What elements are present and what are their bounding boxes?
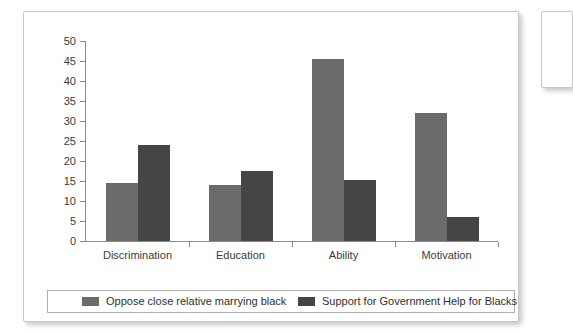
chart-figure: 05101520253035404550 DiscriminationEduca… [34, 21, 506, 266]
y-axis-tick [80, 81, 85, 82]
y-axis-tick-label: 0 [34, 236, 76, 247]
y-axis-tick-label: 15 [34, 176, 76, 187]
legend-swatch [298, 297, 315, 306]
y-axis-tick-label: 25 [34, 136, 76, 147]
legend-entry: Support for Government Help for Blacks [298, 291, 517, 312]
bar [241, 171, 273, 241]
y-axis-tick-label: 35 [34, 96, 76, 107]
legend-label: Support for Government Help for Blacks [322, 296, 517, 307]
y-axis-tick [80, 221, 85, 222]
bar [138, 145, 170, 241]
y-axis-tick [80, 101, 85, 102]
side-panel [541, 11, 573, 88]
y-axis-tick [80, 161, 85, 162]
x-axis-category-label: Education [189, 250, 292, 261]
y-axis-tick [80, 41, 85, 42]
bar [447, 217, 479, 241]
x-axis-category-label: Ability [292, 250, 395, 261]
chart-panel: 05101520253035404550 DiscriminationEduca… [23, 11, 519, 322]
y-axis-tick [80, 121, 85, 122]
x-axis-tick [189, 242, 190, 247]
legend-entry: Oppose close relative marrying black [82, 291, 286, 312]
legend-swatch [82, 297, 99, 306]
y-axis-tick-label: 10 [34, 196, 76, 207]
bar [344, 180, 376, 241]
y-axis-tick-label: 45 [34, 56, 76, 67]
chart-legend: Oppose close relative marrying blackSupp… [47, 290, 515, 313]
x-axis-tick [292, 242, 293, 247]
bar [209, 185, 241, 241]
bar [312, 59, 344, 241]
y-axis-tick-label: 5 [34, 216, 76, 227]
y-axis-tick [80, 241, 85, 242]
x-axis-tick [395, 242, 396, 247]
y-axis-tick [80, 181, 85, 182]
y-axis-tick [80, 201, 85, 202]
y-axis-tick [80, 141, 85, 142]
y-axis-tick-label: 30 [34, 116, 76, 127]
plot-area [86, 41, 498, 241]
y-axis-tick-label: 20 [34, 156, 76, 167]
legend-label: Oppose close relative marrying black [106, 296, 286, 307]
x-axis-category-label: Motivation [395, 250, 498, 261]
x-axis-category-label: Discrimination [86, 250, 189, 261]
bar [415, 113, 447, 241]
bar [106, 183, 138, 241]
y-axis-tick-label: 50 [34, 36, 76, 47]
y-axis-tick [80, 61, 85, 62]
x-axis-tick [498, 242, 499, 247]
y-axis-tick-label: 40 [34, 76, 76, 87]
